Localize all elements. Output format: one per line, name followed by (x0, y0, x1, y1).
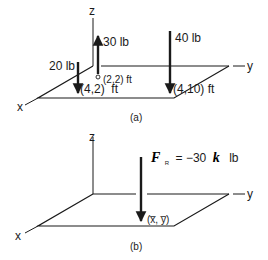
resultant-subscript: R (165, 160, 170, 166)
z-axis-label-b: z (89, 130, 95, 144)
z-axis-label-a: z (89, 4, 95, 18)
caption-b: (b) (130, 241, 142, 252)
point-2-2 (96, 75, 100, 79)
figure-b: z y x F R = −30 k lb (x̅, y̅) (b) (15, 130, 253, 252)
x-axis-label-a: x (17, 100, 23, 114)
x-axis-b (25, 226, 38, 233)
resultant-equation: = −30 (176, 151, 207, 165)
resultant-label: F R = −30 k lb (150, 148, 239, 168)
plate-b (38, 194, 229, 226)
centroid-location-label: (x̅, y̅) (147, 214, 169, 225)
x-axis-a (25, 98, 38, 105)
force-label-30lb: 30 lb (103, 35, 129, 49)
location-label-4-2: (4,2) ft (80, 82, 119, 96)
resultant-symbol: F (150, 150, 161, 165)
diagram-canvas: z y x 30 lb (2,2) ft 20 lb (4,2) ft 40 l… (0, 0, 268, 260)
figure-a: z y x 30 lb (2,2) ft 20 lb (4,2) ft 40 l… (17, 4, 253, 123)
caption-a: (a) (130, 112, 142, 123)
y-axis-label-a: y (247, 59, 253, 73)
resultant-unit: lb (229, 151, 239, 165)
x-axis-label-b: x (15, 229, 21, 243)
y-axis-label-b: y (247, 187, 253, 201)
location-label-4-10: (4,10) ft (173, 82, 215, 96)
force-label-40lb: 40 lb (175, 31, 201, 45)
force-label-20lb: 20 lb (49, 59, 75, 73)
resultant-unit-vector: k (213, 150, 220, 165)
